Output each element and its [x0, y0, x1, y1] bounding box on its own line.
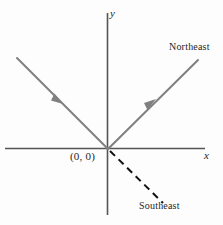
southeast-dashed-ray [110, 151, 163, 203]
x-axis-label: x [204, 150, 209, 161]
coordinate-plane-figure: (0, 0) Northeast Southeast y x [0, 0, 223, 225]
origin-label: (0, 0) [70, 151, 95, 162]
northeast-ray [108, 60, 198, 149]
y-axis-label: y [110, 8, 115, 19]
southeast-label: Southeast [139, 201, 180, 211]
northeast-label: Northeast [169, 42, 210, 52]
figure-canvas [0, 0, 223, 225]
